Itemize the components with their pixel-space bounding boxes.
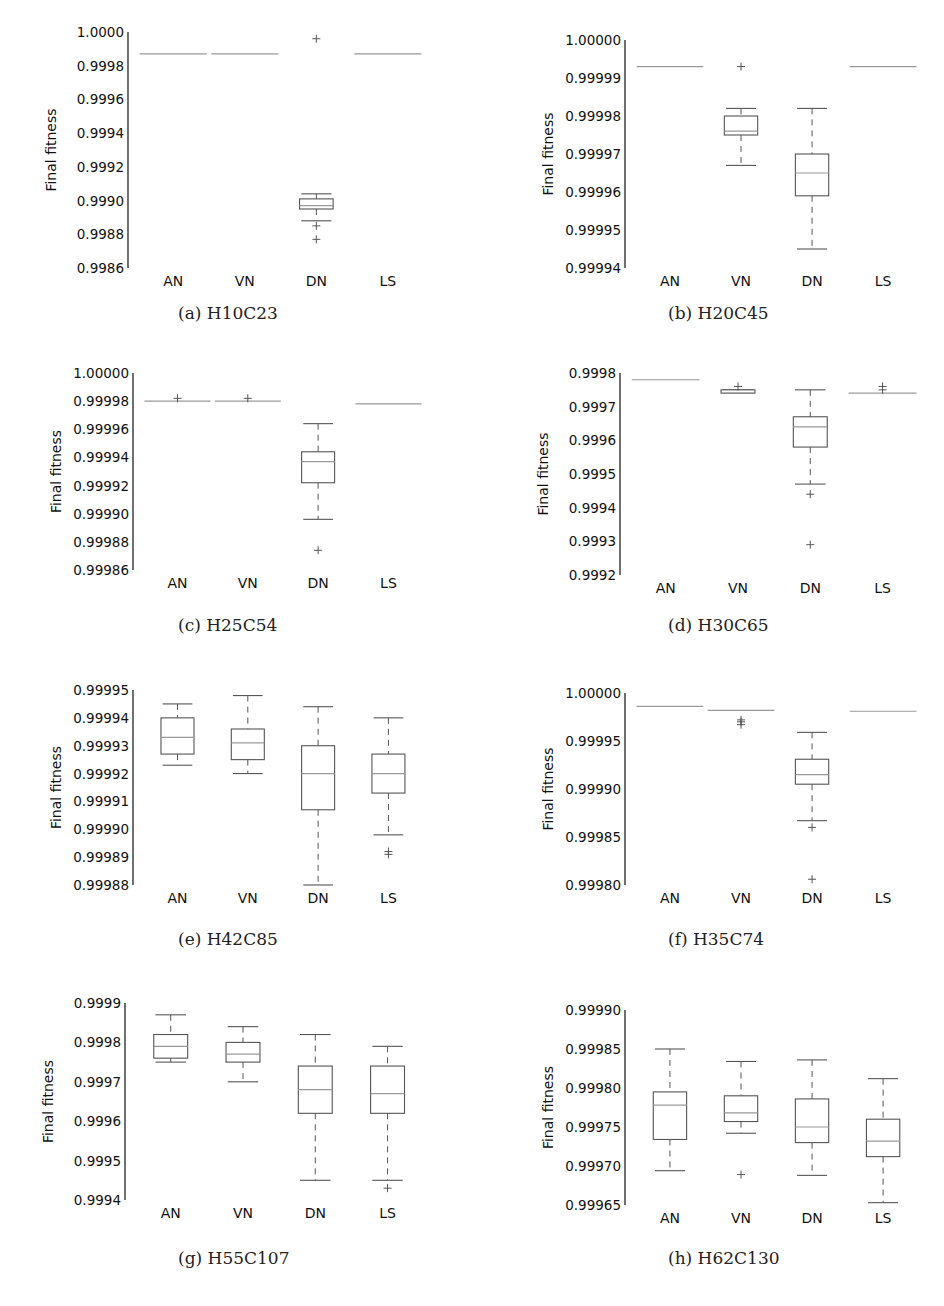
y-axis-label: Final fitness (40, 1060, 56, 1143)
y-tick-label: 1.0000 (77, 24, 124, 40)
x-category-label: LS (380, 273, 397, 289)
y-tick-label: 1.00000 (565, 32, 621, 48)
y-tick-label: 0.99995 (565, 222, 621, 238)
y-tick-label: 0.99970 (565, 1158, 621, 1174)
box-VN (226, 1027, 260, 1082)
y-axis-label: Final fitness (540, 1066, 556, 1149)
x-category-label: VN (728, 580, 748, 596)
y-tick-label: 0.99995 (565, 733, 621, 749)
y-tick-label: 0.99989 (73, 849, 129, 865)
y-tick-label: 0.99997 (565, 146, 621, 162)
y-tick-label: 0.99994 (73, 710, 129, 726)
x-category-label: AN (660, 273, 680, 289)
x-category-label: LS (380, 890, 397, 906)
y-tick-label: 0.9992 (569, 567, 616, 583)
x-category-label: LS (875, 1210, 892, 1226)
y-tick-label: 0.99996 (73, 421, 129, 437)
x-category-label: AN (163, 273, 183, 289)
y-tick-label: 0.99998 (73, 393, 129, 409)
y-axis-label: Final fitness (540, 747, 556, 830)
y-tick-label: 0.99980 (565, 1080, 621, 1096)
y-tick-label: 0.99990 (73, 821, 129, 837)
x-category-label: DN (307, 890, 328, 906)
y-axis-label: Final fitness (48, 430, 64, 513)
x-category-label: VN (731, 890, 751, 906)
box-DN (302, 424, 335, 555)
boxplot-d: 0.99920.99930.99940.99950.99960.99970.99… (0, 0, 944, 1306)
x-category-label: AN (161, 1205, 181, 1221)
caption-g: (g) H55C107 (178, 1248, 289, 1268)
boxplot-a: 0.99860.99880.99900.99920.99940.99960.99… (0, 0, 944, 1306)
y-tick-label: 0.99995 (73, 682, 129, 698)
y-tick-label: 0.99990 (73, 506, 129, 522)
y-tick-label: 0.9994 (77, 125, 124, 141)
y-tick-label: 0.9990 (77, 193, 124, 209)
y-tick-label: 0.99986 (73, 562, 129, 578)
box-LS (849, 382, 917, 393)
x-category-label: VN (238, 575, 258, 591)
caption-h: (h) H62C130 (668, 1248, 780, 1268)
box-LS (372, 718, 405, 859)
y-tick-label: 0.9995 (74, 1153, 121, 1169)
x-category-label: LS (875, 890, 892, 906)
caption-d: (d) H30C65 (668, 615, 769, 635)
boxplot-c: 0.999860.999880.999900.999920.999940.999… (0, 0, 944, 1306)
y-tick-label: 0.9988 (77, 226, 124, 242)
y-tick-label: 0.99975 (565, 1119, 621, 1135)
y-tick-label: 0.9997 (569, 399, 616, 415)
y-axis-label: Final fitness (48, 746, 64, 829)
x-category-label: DN (801, 890, 822, 906)
x-category-label: LS (875, 273, 892, 289)
box-VN (724, 1061, 757, 1178)
x-category-label: DN (801, 273, 822, 289)
caption-f: (f) H35C74 (668, 929, 764, 949)
y-tick-label: 0.9992 (77, 159, 124, 175)
y-tick-label: 0.99993 (73, 738, 129, 754)
box-LS (371, 1046, 405, 1192)
boxplot-g: 0.99940.99950.99960.99970.99980.9999Fina… (0, 0, 944, 1306)
x-category-label: LS (379, 1205, 396, 1221)
y-tick-label: 0.9994 (569, 500, 616, 516)
box-AN (144, 394, 210, 402)
y-tick-label: 0.99988 (73, 877, 129, 893)
y-tick-label: 0.9997 (74, 1074, 121, 1090)
boxplot-b: 0.999940.999950.999960.999970.999980.999… (0, 0, 944, 1306)
box-AN (653, 1049, 686, 1171)
x-category-label: AN (660, 1210, 680, 1226)
box-DN (298, 1035, 332, 1181)
box-VN (231, 696, 264, 774)
y-tick-label: 1.00000 (73, 365, 129, 381)
y-tick-label: 0.99985 (565, 829, 621, 845)
box-VN (721, 382, 755, 393)
y-axis-label: Final fitness (535, 432, 551, 515)
y-tick-label: 0.99985 (565, 1041, 621, 1057)
y-tick-label: 0.9995 (569, 466, 616, 482)
y-axis-label: Final fitness (540, 112, 556, 195)
y-tick-label: 0.9993 (569, 533, 616, 549)
x-category-label: DN (306, 273, 327, 289)
caption-c: (c) H25C54 (178, 615, 277, 635)
y-tick-label: 0.99980 (565, 877, 621, 893)
box-AN (161, 704, 194, 765)
y-tick-label: 0.99991 (73, 793, 129, 809)
y-tick-label: 0.9999 (74, 995, 121, 1011)
y-tick-label: 0.9998 (569, 365, 616, 381)
caption-b: (b) H20C45 (668, 303, 769, 323)
box-DN (795, 108, 828, 249)
x-category-label: LS (380, 575, 397, 591)
y-tick-label: 0.99988 (73, 534, 129, 550)
y-tick-label: 0.99996 (565, 184, 621, 200)
x-category-label: AN (660, 890, 680, 906)
box-DN (300, 35, 334, 244)
y-tick-label: 0.9996 (569, 432, 616, 448)
box-DN (793, 390, 827, 549)
y-tick-label: 0.9998 (77, 58, 124, 74)
box-AN (154, 1015, 188, 1062)
y-tick-label: 0.99999 (565, 70, 621, 86)
y-tick-label: 0.99992 (73, 478, 129, 494)
caption-a: (a) H10C23 (178, 303, 278, 323)
boxplot-f: 0.999800.999850.999900.999951.00000Final… (0, 0, 944, 1306)
box-VN (215, 394, 281, 402)
boxplot-e: 0.999880.999890.999900.999910.999920.999… (0, 0, 944, 1306)
boxplot-h: 0.999650.999700.999750.999800.999850.999… (0, 0, 944, 1306)
